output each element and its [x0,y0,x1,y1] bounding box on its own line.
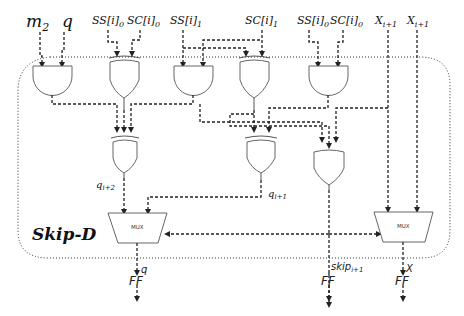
input-sc0-b-label: SC[i]0 [330,14,363,29]
input-ss0-b-label: SS[i]0 [297,14,329,29]
xor-gate-2 [239,56,270,98]
or-gate-1 [314,150,344,185]
mux-x: MUX [374,212,433,242]
mux-x-label: MUX [397,223,410,229]
ff-x-label: FF [395,274,410,288]
ff-x-output-label: X [405,263,414,274]
input-ss1-label: SS[i]1 [170,14,202,29]
input-sc1-label: SC[i]1 [245,14,278,29]
input-m2-label: m2 [26,11,49,34]
input-sc0-a-label: SC[i]0 [127,14,160,29]
input-labels: m2 q SS[i]0 SC[i]0 SS[i]1 SC[i]1 SS[i]0 … [26,11,429,34]
xor-gate-1 [109,56,140,98]
mux-feed-wires [124,173,379,305]
signal-q-i1-label: qi+1 [268,188,287,201]
mux-q-label: MUX [131,224,144,230]
ff-skip-label: FF [321,274,336,288]
xor-gate-3 [111,136,139,173]
input-x1-label: Xi+1 [374,14,397,29]
ff-q-label: FF [129,274,144,288]
internal-wires [52,95,388,146]
xor-gate-4 [245,136,277,173]
input-q-label: q [62,11,73,31]
mux-q: MUX [108,213,167,243]
and-gate-1 [33,66,72,96]
ff-q-output-label: q [141,264,147,275]
ff-skip-output-label: skipi+1 [331,261,363,274]
and-gate-3 [309,66,348,95]
skip-d-circuit-diagram: m2 q SS[i]0 SC[i]0 SS[i]1 SC[i]1 SS[i]0 … [0,0,464,316]
input-ss0-a-label: SS[i]0 [92,14,124,29]
input-x2-label: Xi+1 [406,14,429,29]
signal-q-i2-label: qi+2 [96,179,116,192]
module-title: Skip-D [32,224,96,244]
and-gate-2 [174,66,213,96]
